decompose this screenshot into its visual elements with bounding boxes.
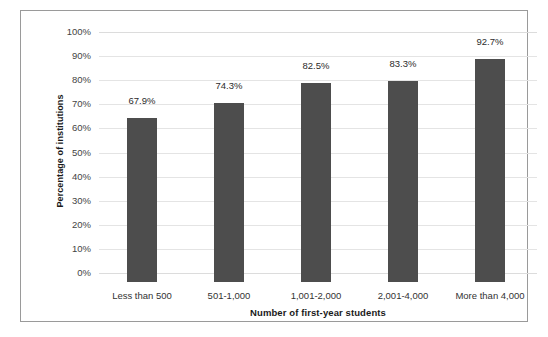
plot-area: 67.9% Less than 500 74.3% 501-1,000 82.5… bbox=[99, 32, 537, 293]
y-tick-label: 10% bbox=[49, 241, 91, 257]
x-axis-title: Number of first-year students bbox=[99, 307, 537, 318]
y-tick-label: 80% bbox=[49, 72, 91, 88]
y-tick-label: 40% bbox=[49, 169, 91, 185]
y-axis-tick-labels: 100% 90% 80% 70% 60% 50% 40% 30% 20% 10%… bbox=[49, 32, 91, 293]
chart-frame: Percentage of institutions 100% 90% 80% … bbox=[20, 10, 528, 322]
bar-series: 67.9% Less than 500 74.3% 501-1,000 82.5… bbox=[99, 32, 537, 293]
y-tick-label: 0% bbox=[49, 265, 91, 281]
bar[interactable] bbox=[127, 118, 157, 282]
y-tick-label: 90% bbox=[49, 48, 91, 64]
bar-value-label: 67.9% bbox=[99, 95, 185, 106]
y-tick-label: 60% bbox=[49, 120, 91, 136]
bar[interactable] bbox=[388, 81, 418, 282]
y-tick-label: 30% bbox=[49, 193, 91, 209]
y-tick-label: 50% bbox=[49, 145, 91, 161]
bar-value-label: 83.3% bbox=[360, 58, 446, 69]
bar-value-label: 82.5% bbox=[273, 60, 359, 71]
bar[interactable] bbox=[475, 59, 505, 282]
y-tick-label: 70% bbox=[49, 96, 91, 112]
x-tick-label: More than 4,000 bbox=[433, 290, 547, 301]
bar[interactable] bbox=[214, 103, 244, 282]
bar-value-label: 74.3% bbox=[186, 80, 272, 91]
y-tick-label: 20% bbox=[49, 217, 91, 233]
bar[interactable] bbox=[301, 83, 331, 282]
bar-value-label: 92.7% bbox=[447, 36, 533, 47]
y-tick-label: 100% bbox=[49, 24, 91, 40]
